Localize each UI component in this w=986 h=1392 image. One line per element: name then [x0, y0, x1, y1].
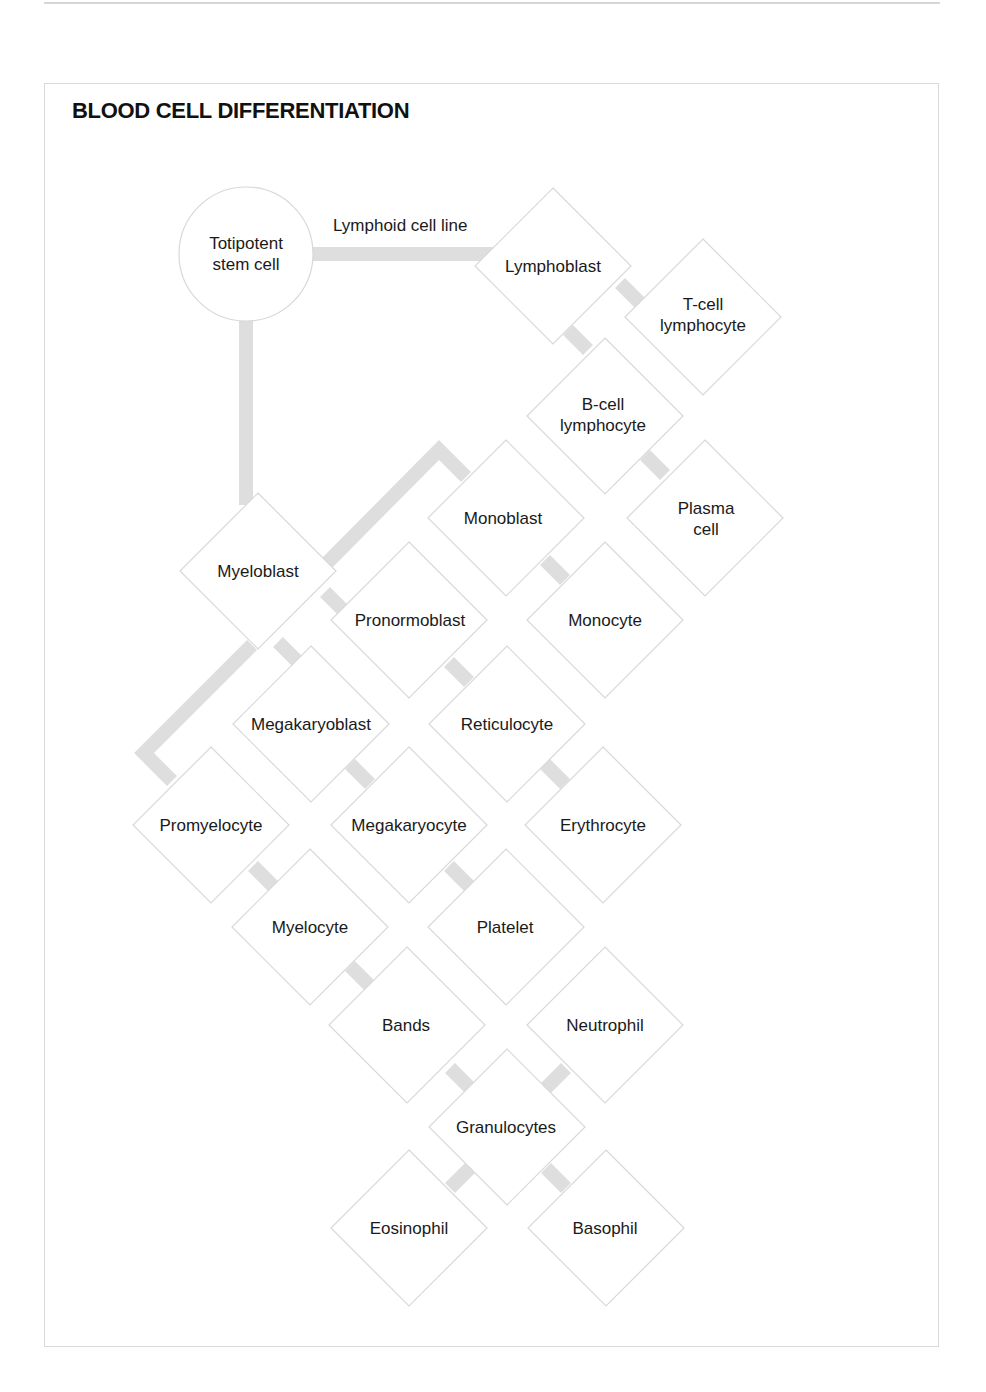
node-t-cell: T-cell lymphocyte	[660, 294, 746, 336]
connector-granulocytes-basophil	[546, 1168, 566, 1188]
connector-bands-granulocytes	[450, 1068, 470, 1088]
node-plasma-line2: cell	[678, 519, 735, 540]
node-reticulocyte: Reticulocyte	[461, 714, 554, 735]
node-promyelocyte: Promyelocyte	[160, 815, 263, 836]
node-stem-cell-line1: Totipotent	[209, 233, 283, 254]
node-b-cell-line1: B-cell	[560, 394, 646, 415]
node-megakaryoblast: Megakaryoblast	[251, 714, 371, 735]
node-platelet: Platelet	[477, 917, 534, 938]
node-neutrophil: Neutrophil	[566, 1015, 644, 1036]
lymphoid-cell-line-label: Lymphoid cell line	[333, 216, 468, 236]
connector-pronormoblast-reticulocyte	[449, 662, 469, 682]
connector-lymphoblast-tcell	[620, 283, 640, 303]
node-b-cell-line2: lymphocyte	[560, 415, 646, 436]
node-plasma-line1: Plasma	[678, 498, 735, 519]
connector-reticulocyte-erythrocyte	[545, 764, 565, 784]
connector-neutrophil-granulocytes	[546, 1068, 566, 1088]
node-bands: Bands	[382, 1015, 430, 1036]
node-b-cell: B-cell lymphocyte	[560, 394, 646, 436]
shapes	[133, 187, 783, 1306]
connector-lymphoblast-bcell	[568, 330, 588, 350]
connector-megakaryoblast-megakaryocyte	[350, 764, 370, 784]
differentiation-diagram	[0, 0, 986, 1392]
node-pronormoblast: Pronormoblast	[355, 610, 466, 631]
connector-bcell-plasma	[645, 455, 665, 475]
node-t-cell-line2: lymphocyte	[660, 315, 746, 336]
node-stem-cell-line2: stem cell	[209, 254, 283, 275]
node-erythrocyte: Erythrocyte	[560, 815, 646, 836]
node-lymphoblast: Lymphoblast	[505, 256, 601, 277]
connector-promyelocyte-myelocyte	[253, 866, 273, 886]
node-monocyte: Monocyte	[568, 610, 642, 631]
node-granulocytes: Granulocytes	[456, 1117, 556, 1138]
connector-monoblast-monocyte	[545, 560, 565, 580]
connector-myeloblast-megakaryoblast	[278, 642, 298, 662]
connector-granulocytes-eosinophil	[450, 1168, 470, 1188]
node-stem-cell: Totipotent stem cell	[209, 233, 283, 275]
node-t-cell-line1: T-cell	[660, 294, 746, 315]
node-megakaryocyte: Megakaryocyte	[351, 815, 466, 836]
node-monoblast: Monoblast	[464, 508, 542, 529]
node-myeloblast: Myeloblast	[217, 561, 298, 582]
node-basophil: Basophil	[572, 1218, 637, 1239]
node-eosinophil: Eosinophil	[370, 1218, 448, 1239]
connector-megakaryocyte-platelet	[449, 866, 469, 886]
connector-myelocyte-bands	[350, 966, 370, 986]
node-plasma-cell: Plasma cell	[678, 498, 735, 540]
node-myelocyte: Myelocyte	[272, 917, 349, 938]
